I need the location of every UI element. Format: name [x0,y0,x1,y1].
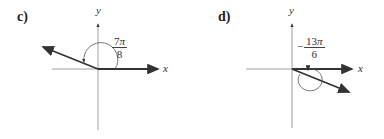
terminal-side-c [43,47,98,69]
x-axis-label-d: x [358,62,363,74]
panel-d: d) y x − 13π 6 [192,0,384,139]
y-axis-label-d: y [289,4,294,16]
angle-label-d: 13π 6 [304,35,325,60]
panel-c: c) y x 7π 8 [0,0,192,139]
angle-sign-d: − [297,40,303,52]
angle-diagram-d [192,0,384,139]
y-axis-label-c: y [96,4,101,16]
angle-label-c: 7π 8 [112,35,127,60]
terminal-side-d [292,69,349,92]
x-axis-label-c: x [163,62,168,74]
